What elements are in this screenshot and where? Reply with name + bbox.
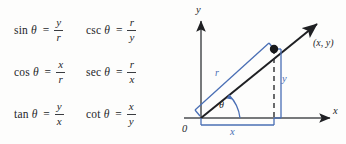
formula-sin-denominator: r — [55, 32, 63, 43]
x-axis-label: x — [333, 106, 338, 117]
y-axis-label: y — [196, 5, 201, 16]
formula-sin-function: sin — [14, 24, 28, 36]
point-coordinates-label: (x, y) — [313, 38, 334, 48]
radius-label: r — [215, 68, 219, 78]
formula-tan-equals: = — [43, 108, 50, 120]
formula-csc-fraction: r y — [127, 17, 136, 42]
formula-panel: sin θ = y r csc θ = r y — [0, 0, 170, 144]
formula-cot-denominator: y — [127, 116, 136, 127]
formula-tan: tan θ = y x — [14, 101, 86, 126]
formula-csc: csc θ = r y — [86, 17, 166, 42]
point-marker — [270, 45, 278, 53]
formula-cos-variable: θ — [33, 66, 39, 78]
horizontal-leg-label: x — [230, 127, 235, 138]
formula-tan-variable: θ — [32, 108, 38, 120]
formula-tan-fraction: y x — [55, 101, 64, 126]
formula-cot-fraction: x y — [127, 101, 136, 126]
formula-cos-function: cos — [14, 66, 30, 78]
formula-cos-fraction: x r — [56, 59, 65, 84]
formula-tan-function: tan — [14, 108, 29, 120]
formula-sin-variable: θ — [31, 24, 37, 36]
diagram-graphics — [170, 0, 346, 144]
formula-sin-equals: = — [43, 24, 50, 36]
formula-sec-numerator: r — [128, 59, 136, 70]
origin-label: 0 — [182, 124, 187, 135]
trig-definitions-figure: sin θ = y r csc θ = r y — [0, 0, 346, 144]
formula-cot-numerator: x — [127, 101, 136, 112]
vertical-leg-label: y — [282, 74, 287, 85]
formula-cos-equals: = — [45, 66, 52, 78]
formula-sin-fraction: y r — [54, 17, 63, 42]
formula-csc-variable: θ — [104, 24, 110, 36]
formula-sin: sin θ = y r — [14, 17, 86, 42]
formula-cos-denominator: r — [56, 74, 64, 85]
formula-cot-function: cot — [86, 108, 101, 120]
formula-sin-numerator: y — [54, 17, 63, 28]
formula-sec-denominator: x — [128, 74, 137, 85]
formula-cos-numerator: x — [56, 59, 65, 70]
formula-cos: cos θ = x r — [14, 59, 86, 84]
formula-cot: cot θ = x y — [86, 101, 166, 126]
formula-csc-equals: = — [116, 24, 123, 36]
formula-grid: sin θ = y r csc θ = r y — [14, 9, 166, 135]
formula-sec: sec θ = r x — [86, 59, 166, 84]
formula-sec-function: sec — [86, 66, 101, 78]
formula-tan-numerator: y — [55, 101, 64, 112]
horizontal-leg-measure-bracket — [201, 118, 274, 125]
formula-csc-numerator: r — [128, 17, 136, 28]
formula-csc-function: csc — [86, 24, 101, 36]
radius-measure-bracket — [195, 43, 274, 116]
formula-cot-variable: θ — [104, 108, 110, 120]
formula-tan-denominator: x — [55, 116, 64, 127]
formula-csc-denominator: y — [128, 32, 137, 43]
formula-sec-equals: = — [116, 66, 123, 78]
formula-sec-fraction: r x — [127, 59, 136, 84]
vertical-leg-measure-bracket — [274, 49, 281, 118]
formula-cot-equals: = — [115, 108, 122, 120]
angle-theta-label: θ — [219, 100, 224, 110]
coordinate-diagram: y x 0 (x, y) r y x θ — [170, 0, 346, 144]
formula-sec-variable: θ — [104, 66, 110, 78]
